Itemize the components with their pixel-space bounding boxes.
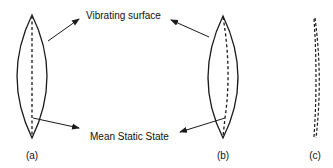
- vibrating-surface-outline-b: [208, 16, 238, 138]
- panel-a: [17, 15, 79, 138]
- label-vibrating-surface: Vibrating surface: [86, 10, 161, 21]
- mean-static-line-c-inner: [314, 19, 316, 137]
- label-mean-static-state: Mean Static State: [90, 131, 169, 142]
- mean-static-line-c-outer: [315, 18, 319, 138]
- caption-c: (c): [309, 150, 321, 161]
- caption-b: (b): [217, 150, 229, 161]
- diagram-canvas: [0, 0, 333, 168]
- arrow-mean-static-state-b: [180, 118, 225, 132]
- panel-b: [171, 16, 238, 138]
- caption-a: (a): [26, 150, 38, 161]
- panel-c: [314, 18, 319, 138]
- arrow-mean-static-state: [33, 118, 79, 128]
- arrow-vibrating-surface-b: [171, 20, 209, 37]
- arrow-vibrating-surface: [48, 19, 79, 41]
- mean-static-line-b: [223, 17, 228, 137]
